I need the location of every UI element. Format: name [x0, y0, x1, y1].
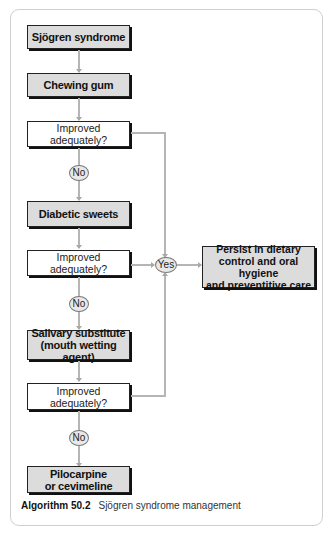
- question-label: Improved adequately?: [28, 251, 129, 275]
- yes-connector-3: [131, 395, 166, 397]
- yes-connector-vertical-bottom: [164, 273, 166, 397]
- no-label-2: No: [69, 296, 89, 312]
- connector-line: [78, 277, 80, 297]
- no-label-3: No: [69, 430, 89, 446]
- start-box-sjogren-syndrome: Sjögren syndrome: [27, 25, 130, 49]
- arrow-down-icon: [76, 378, 82, 382]
- caption-text: Sjögren syndrome management: [98, 500, 240, 511]
- connector-line: [78, 148, 80, 166]
- final-line-1: Pilocarpine: [45, 468, 113, 480]
- action-box-salivary-substitute: Salivary substitute (mouth wetting agent…: [27, 330, 130, 360]
- outcome-line-3: and preventitive care: [203, 279, 314, 291]
- final-line-2: or cevimeline: [45, 480, 113, 492]
- action-box-pilocarpine: Pilocarpine or cevimeline: [27, 466, 130, 493]
- caption-label: Algorithm 50.2: [21, 500, 90, 511]
- yes-connector-2: [131, 264, 153, 266]
- yes-label: Yes: [155, 257, 177, 273]
- action-label-line-1: Salivary substitute: [28, 327, 129, 339]
- no-label-1: No: [69, 165, 89, 181]
- outcome-line-2: control and oral hygiene: [203, 255, 314, 279]
- action-box-chewing-gum: Chewing gum: [27, 73, 130, 97]
- action-box-diabetic-sweets: Diabetic sweets: [27, 201, 130, 227]
- outcome-line-1: Persist in dietary: [203, 243, 314, 255]
- yes-connector-1: [131, 132, 166, 134]
- question-box-2: Improved adequately?: [27, 250, 130, 276]
- arrow-down-icon: [76, 245, 82, 249]
- question-label: Improved adequately?: [28, 122, 129, 146]
- start-box-label: Sjögren syndrome: [32, 31, 125, 43]
- yes-connector-vertical-top: [164, 132, 166, 258]
- question-label: Improved adequately?: [28, 385, 129, 409]
- question-box-1: Improved adequately?: [27, 121, 130, 147]
- question-box-3: Improved adequately?: [27, 383, 130, 410]
- connector-line: [78, 411, 80, 431]
- action-label-line-2: (mouth wetting agent): [28, 339, 129, 363]
- figure-caption: Algorithm 50.2Sjögren syndrome managemen…: [21, 500, 241, 511]
- outcome-box-persist: Persist in dietary control and oral hygi…: [202, 246, 315, 288]
- action-label: Diabetic sweets: [39, 208, 119, 220]
- arrow-up-icon: [162, 272, 168, 276]
- action-label: Chewing gum: [44, 79, 114, 91]
- yes-outcome-connector: [177, 264, 200, 266]
